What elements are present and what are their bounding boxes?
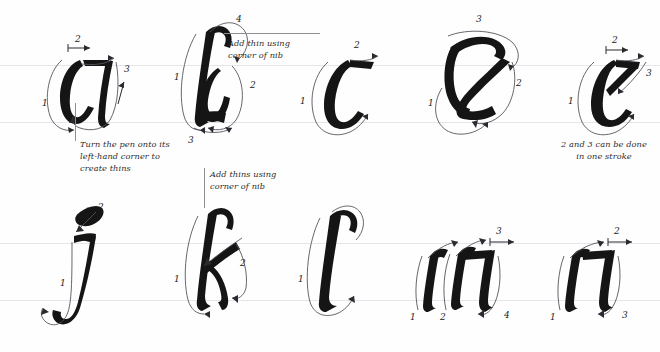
- letter-a-stroke2-arrow: [68, 44, 90, 52]
- letter-a-number-1: 1: [42, 98, 48, 108]
- letter-cell-a: 1 2 3: [28, 32, 138, 142]
- letter-cell-j: 1 2: [34, 190, 134, 330]
- letter-b-number-3: 3: [188, 135, 194, 145]
- letter-cell-e: 1 2 3: [560, 32, 660, 137]
- letter-l-drawing: 1: [288, 190, 388, 325]
- letter-b-drawing: 1 2 3 4: [160, 10, 270, 145]
- letter-j-number-2: 2: [97, 202, 104, 212]
- letter-j-drawing: 1 2: [34, 190, 134, 330]
- letter-cell-k: 1 2: [164, 190, 274, 325]
- letter-cell-b: 1 2 3 4: [160, 10, 270, 145]
- letter-cell-m: 1 2 3 4: [400, 222, 535, 327]
- letter-k-drawing: 1 2: [164, 190, 274, 325]
- letter-cell-c: 1 2: [292, 36, 392, 136]
- letter-a-stroke3-arrow: [118, 82, 124, 104]
- letter-k-note-leader: [204, 168, 205, 208]
- letter-k-ink: [197, 208, 240, 311]
- letter-b-ink: [195, 26, 232, 127]
- letter-a-ink: [60, 60, 113, 128]
- letter-n-ink: [565, 249, 615, 312]
- letter-cell-d: 1 2 3: [420, 10, 535, 140]
- calligraphy-stroke-sheet: 1 2 3 Turn the pen onto its left-hand co…: [0, 0, 660, 352]
- letter-d-number-2: 2: [515, 78, 522, 88]
- letter-k-number-2: 2: [239, 258, 246, 268]
- letter-e-number-1: 1: [568, 96, 574, 106]
- letter-a-drawing: 1 2 3: [28, 32, 138, 142]
- letter-n-drawing: 1 2 3: [538, 222, 658, 327]
- letter-e-drawing: 1 2 3: [560, 32, 660, 137]
- letter-d-number-3: 3: [476, 14, 482, 24]
- letter-a-number-3: 3: [124, 64, 130, 74]
- letter-a-note-leader: [75, 103, 76, 141]
- letter-n-number-1: 1: [550, 312, 556, 322]
- letter-b-number-2: 2: [249, 80, 256, 90]
- letter-m-number-2: 2: [439, 312, 446, 322]
- letter-m-drawing: 1 2 3 4: [400, 222, 535, 327]
- letter-n-number-2: 2: [613, 226, 620, 236]
- letter-l-ink: [319, 210, 358, 312]
- letter-m-stroke3-arrow: [490, 238, 514, 246]
- letter-k-note: Add thins using corner of nib: [210, 168, 320, 192]
- letter-n-stroke2-arrow: [608, 238, 632, 246]
- letter-m-number-4: 4: [503, 310, 510, 320]
- letter-e-number-2: 2: [611, 35, 618, 45]
- letter-j-ink: [52, 206, 103, 324]
- letter-l-arrowheads: [348, 296, 355, 303]
- letter-j-number-1: 1: [60, 278, 66, 288]
- letter-b-number-1: 1: [174, 72, 180, 82]
- letter-d-number-1: 1: [428, 98, 434, 108]
- letter-d-drawing: 1 2 3: [420, 10, 535, 140]
- letter-n-number-3: 3: [622, 310, 628, 320]
- letter-c-drawing: 1 2: [292, 36, 392, 136]
- letter-a-number-2: 2: [74, 34, 81, 44]
- letter-c-number-2: 2: [353, 40, 360, 50]
- letter-e-stroke2-arrow: [606, 46, 628, 54]
- letter-b-number-4: 4: [235, 14, 242, 24]
- letter-m-ink: [423, 247, 495, 312]
- letter-k-number-1: 1: [174, 274, 180, 284]
- letter-l-number-1: 1: [298, 274, 304, 284]
- letter-e-number-3: 3: [646, 68, 652, 78]
- letter-b-note-leader: [224, 33, 320, 34]
- letter-d-ink: [445, 37, 510, 120]
- letter-m-number-3: 3: [496, 226, 502, 236]
- letter-c-number-1: 1: [300, 96, 306, 106]
- letter-m-number-1: 1: [410, 312, 416, 322]
- letter-cell-n: 1 2 3: [538, 222, 658, 327]
- letter-e-note: 2 and 3 can be done in one stroke: [548, 138, 660, 162]
- letter-cell-l: 1: [288, 190, 388, 325]
